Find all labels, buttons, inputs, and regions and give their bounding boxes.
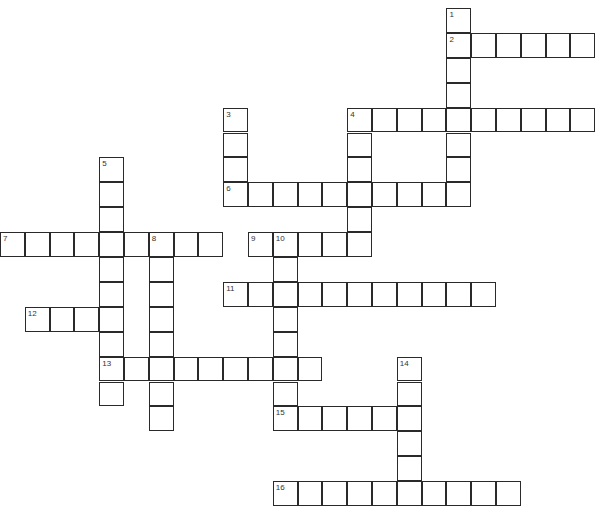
crossword-cell[interactable] [99, 257, 124, 282]
crossword-cell[interactable] [50, 307, 75, 332]
crossword-cell[interactable] [372, 108, 397, 133]
crossword-cell[interactable] [446, 58, 471, 83]
crossword-cell[interactable] [322, 481, 347, 506]
crossword-cell[interactable]: 10 [273, 232, 298, 257]
crossword-cell[interactable] [124, 357, 149, 382]
crossword-cell[interactable] [546, 108, 571, 133]
crossword-cell[interactable] [347, 232, 372, 257]
crossword-cell[interactable] [273, 307, 298, 332]
crossword-cell[interactable] [99, 307, 124, 332]
crossword-cell[interactable]: 6 [223, 182, 248, 207]
crossword-cell[interactable] [397, 282, 422, 307]
crossword-cell[interactable]: 9 [248, 232, 273, 257]
crossword-cell[interactable] [25, 232, 50, 257]
crossword-cell[interactable] [298, 481, 323, 506]
crossword-cell[interactable] [174, 232, 199, 257]
crossword-cell[interactable] [149, 282, 174, 307]
crossword-cell[interactable] [422, 481, 447, 506]
crossword-cell[interactable] [347, 481, 372, 506]
crossword-cell[interactable] [74, 307, 99, 332]
crossword-cell[interactable] [149, 307, 174, 332]
crossword-cell[interactable] [446, 83, 471, 108]
crossword-cell[interactable] [223, 133, 248, 158]
crossword-cell[interactable] [471, 108, 496, 133]
crossword-cell[interactable] [521, 108, 546, 133]
crossword-cell[interactable]: 14 [397, 357, 422, 382]
crossword-cell[interactable]: 13 [99, 357, 124, 382]
crossword-cell[interactable] [174, 357, 199, 382]
crossword-cell[interactable] [372, 406, 397, 431]
crossword-cell[interactable] [99, 282, 124, 307]
crossword-cell[interactable]: 1 [446, 8, 471, 33]
crossword-cell[interactable] [372, 282, 397, 307]
crossword-cell[interactable] [322, 182, 347, 207]
crossword-cell[interactable] [298, 406, 323, 431]
crossword-cell[interactable] [322, 232, 347, 257]
crossword-cell[interactable]: 7 [0, 232, 25, 257]
crossword-cell[interactable] [273, 332, 298, 357]
crossword-cell[interactable] [471, 33, 496, 58]
crossword-cell[interactable] [496, 33, 521, 58]
crossword-cell[interactable]: 3 [223, 108, 248, 133]
crossword-cell[interactable] [372, 481, 397, 506]
crossword-cell[interactable] [149, 357, 174, 382]
crossword-cell[interactable] [471, 481, 496, 506]
crossword-cell[interactable]: 11 [223, 282, 248, 307]
crossword-cell[interactable]: 16 [273, 481, 298, 506]
crossword-cell[interactable] [347, 282, 372, 307]
crossword-cell[interactable] [273, 257, 298, 282]
crossword-cell[interactable] [149, 332, 174, 357]
crossword-cell[interactable] [446, 182, 471, 207]
crossword-cell[interactable] [397, 182, 422, 207]
crossword-cell[interactable] [298, 357, 323, 382]
crossword-cell[interactable] [149, 406, 174, 431]
crossword-cell[interactable] [322, 406, 347, 431]
crossword-cell[interactable]: 2 [446, 33, 471, 58]
crossword-cell[interactable] [446, 282, 471, 307]
crossword-cell[interactable] [74, 232, 99, 257]
crossword-cell[interactable] [422, 182, 447, 207]
crossword-cell[interactable] [198, 232, 223, 257]
crossword-cell[interactable] [521, 33, 546, 58]
crossword-cell[interactable] [570, 33, 595, 58]
crossword-cell[interactable] [446, 157, 471, 182]
crossword-cell[interactable] [446, 481, 471, 506]
crossword-cell[interactable] [50, 232, 75, 257]
crossword-cell[interactable] [446, 133, 471, 158]
crossword-cell[interactable] [347, 182, 372, 207]
crossword-cell[interactable] [347, 207, 372, 232]
crossword-cell[interactable]: 8 [149, 232, 174, 257]
crossword-cell[interactable] [446, 108, 471, 133]
crossword-cell[interactable] [273, 382, 298, 407]
crossword-cell[interactable] [149, 257, 174, 282]
crossword-cell[interactable] [273, 357, 298, 382]
crossword-cell[interactable] [99, 182, 124, 207]
crossword-cell[interactable] [397, 481, 422, 506]
crossword-cell[interactable] [422, 282, 447, 307]
crossword-cell[interactable] [347, 406, 372, 431]
crossword-cell[interactable] [149, 382, 174, 407]
crossword-cell[interactable] [570, 108, 595, 133]
crossword-cell[interactable] [422, 108, 447, 133]
crossword-cell[interactable] [298, 182, 323, 207]
crossword-cell[interactable] [347, 157, 372, 182]
crossword-cell[interactable] [496, 108, 521, 133]
crossword-cell[interactable] [496, 481, 521, 506]
crossword-cell[interactable]: 5 [99, 157, 124, 182]
crossword-cell[interactable] [223, 157, 248, 182]
crossword-cell[interactable] [471, 282, 496, 307]
crossword-cell[interactable] [546, 33, 571, 58]
crossword-cell[interactable] [99, 207, 124, 232]
crossword-cell[interactable] [298, 282, 323, 307]
crossword-cell[interactable] [124, 232, 149, 257]
crossword-cell[interactable] [372, 182, 397, 207]
crossword-cell[interactable] [397, 431, 422, 456]
crossword-cell[interactable] [198, 357, 223, 382]
crossword-cell[interactable] [397, 406, 422, 431]
crossword-cell[interactable] [248, 182, 273, 207]
crossword-cell[interactable] [248, 357, 273, 382]
crossword-cell[interactable]: 4 [347, 108, 372, 133]
crossword-cell[interactable] [347, 133, 372, 158]
crossword-cell[interactable] [397, 382, 422, 407]
crossword-cell[interactable] [397, 108, 422, 133]
